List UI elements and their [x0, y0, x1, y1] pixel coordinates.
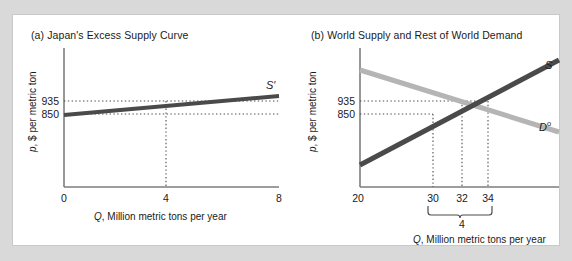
panel-a-x-axis-title: Q, Million metric tons per year — [94, 211, 227, 222]
panel-a-curve-label-prime: ′ — [273, 79, 275, 91]
panel-b-x-axis-title: Q, Million metric tons per year — [413, 234, 546, 245]
panel-b-supply-curve — [360, 60, 559, 165]
panel-b-brace-label: 4 — [450, 218, 474, 230]
panel-b-x-axis-title-units: , Million metric tons per year — [421, 234, 546, 245]
panel-b-xtick-20: 20 — [346, 192, 370, 204]
panel-b-y-axis-title: p, $ per metric ton — [307, 71, 318, 152]
panel-b-xtick-30: 30 — [421, 192, 445, 204]
panel-b-ytick-935: 935 — [321, 95, 355, 107]
panel-a-ytick-935: 935 — [25, 95, 59, 107]
panel-b-svg — [291, 15, 561, 247]
panel-a-x-axis-title-units: , Million metric tons per year — [102, 211, 227, 222]
panel-b-y-axis-title-units: , $ per metric ton — [307, 71, 318, 146]
panel-japan-excess-supply: (a) Japan's Excess Supply Curve p, $ per… — [13, 15, 291, 247]
panel-a-xtick-0: 0 — [54, 192, 74, 204]
panel-a-xtick-8: 8 — [269, 192, 289, 204]
panel-b-xtick-34: 34 — [476, 192, 500, 204]
panel-b-curve-label-demand-d: D — [539, 121, 547, 133]
panel-a-xtick-4: 4 — [156, 192, 176, 204]
panel-a-y-axis-title-var: p — [27, 146, 38, 152]
panel-b-demand-curve — [360, 70, 559, 132]
panel-world-supply-row-demand: (b) World Supply and Rest of World Deman… — [291, 15, 561, 247]
panel-b-xtick-32: 32 — [450, 192, 474, 204]
panel-a-curve-label-s-prime: S′ — [266, 79, 275, 91]
panel-b-y-axis-title-var: p — [307, 146, 318, 152]
panel-b-ytick-850: 850 — [321, 108, 355, 120]
panel-b-curve-label-supply: S — [545, 59, 552, 71]
panel-b-curve-label-demand-sup: o — [547, 119, 551, 128]
panel-a-supply-curve — [64, 96, 279, 115]
panel-b-curve-label-demand: Do — [539, 119, 551, 133]
panel-b-range-brace — [428, 206, 492, 218]
panel-b-x-axis-title-var: Q — [413, 234, 421, 245]
panel-a-ytick-850: 850 — [25, 108, 59, 120]
panel-b-plot — [291, 15, 561, 247]
panel-a-x-axis-title-var: Q — [94, 211, 102, 222]
figure-card: (a) Japan's Excess Supply Curve p, $ per… — [12, 14, 560, 246]
